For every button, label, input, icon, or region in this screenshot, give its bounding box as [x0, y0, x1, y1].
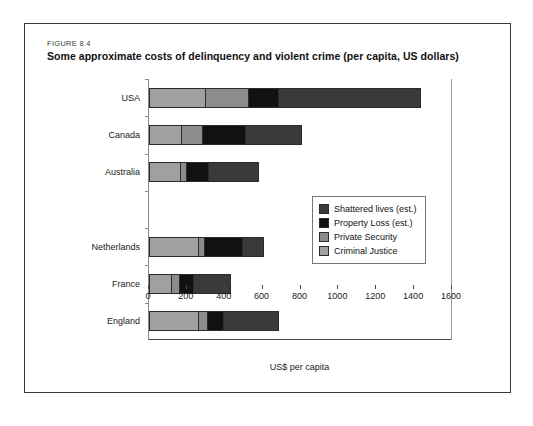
x-axis-tick-label: 1600 — [441, 291, 461, 301]
bar-segment — [205, 89, 248, 107]
y-axis-tick — [145, 191, 149, 192]
x-axis-tick-label: 200 — [178, 291, 193, 301]
chart-legend: Shattered lives (est.)Property Loss (est… — [312, 196, 426, 264]
bar-segment — [181, 126, 202, 144]
chart-plot: USACanadaAustraliaNetherlandsFranceEngla… — [25, 24, 512, 394]
bar-segment — [150, 89, 205, 107]
bar-segment — [150, 163, 180, 181]
bar-segment — [245, 126, 301, 144]
y-axis-label: Netherlands — [91, 242, 140, 252]
legend-item[interactable]: Property Loss (est.) — [319, 216, 417, 230]
x-axis-tick — [262, 285, 263, 289]
chart-category-row: England — [149, 303, 451, 340]
y-axis-tick — [145, 154, 149, 155]
bar-segment — [150, 126, 181, 144]
x-axis-tick-label: 800 — [292, 291, 307, 301]
legend-item[interactable]: Criminal Justice — [319, 244, 417, 258]
y-axis-tick — [145, 116, 149, 117]
x-axis-tick — [451, 285, 452, 289]
bar-segment — [150, 238, 198, 256]
y-axis-label: Canada — [108, 130, 140, 140]
y-axis-tick — [145, 303, 149, 304]
legend-item[interactable]: Shattered lives (est.) — [319, 202, 417, 216]
stacked-bar — [149, 125, 302, 145]
x-axis-tick — [300, 285, 301, 289]
x-axis-tick — [224, 285, 225, 289]
stacked-bar — [149, 237, 264, 257]
x-axis-tick-label: 400 — [216, 291, 231, 301]
bar-segment — [278, 89, 420, 107]
x-axis-title: US$ per capita — [148, 362, 451, 372]
x-axis-tick — [375, 285, 376, 289]
legend-swatch-icon — [319, 204, 329, 214]
bar-segment — [202, 126, 245, 144]
legend-swatch-icon — [319, 246, 329, 256]
bar-segment — [248, 89, 278, 107]
bar-segment — [150, 312, 198, 330]
x-axis-tick — [413, 285, 414, 289]
legend-swatch-icon — [319, 232, 329, 242]
y-axis-label: USA — [121, 93, 140, 103]
bar-segment — [204, 238, 242, 256]
stacked-bar — [149, 162, 259, 182]
legend-label: Shattered lives (est.) — [334, 204, 417, 214]
stacked-bar — [149, 311, 279, 331]
bar-segment — [186, 163, 208, 181]
x-axis-tick-label: 1200 — [365, 291, 385, 301]
x-axis-tick-label: 600 — [254, 291, 269, 301]
legend-label: Criminal Justice — [334, 246, 398, 256]
stacked-bar — [149, 88, 421, 108]
legend-label: Private Security — [334, 232, 397, 242]
bar-segment — [150, 275, 171, 293]
x-axis-tick — [337, 285, 338, 289]
x-axis-tick-label: 1400 — [403, 291, 423, 301]
bar-segment — [208, 163, 258, 181]
bar-segment — [198, 312, 207, 330]
y-axis-tick — [145, 79, 149, 80]
x-axis-tick — [186, 285, 187, 289]
bar-segment — [207, 312, 223, 330]
figure-frame: FIGURE 8.4 Some approximate costs of del… — [24, 23, 511, 393]
chart-category-row: Australia — [149, 154, 451, 191]
y-axis-label: Australia — [105, 167, 140, 177]
x-axis-tick — [148, 285, 149, 289]
y-axis-tick — [145, 265, 149, 266]
legend-item[interactable]: Private Security — [319, 230, 417, 244]
bar-segment — [223, 312, 278, 330]
legend-swatch-icon — [319, 218, 329, 228]
chart-category-row: USA — [149, 79, 451, 116]
bar-segment — [242, 238, 263, 256]
y-axis-label: France — [112, 279, 140, 289]
y-axis-label: England — [107, 316, 140, 326]
legend-label: Property Loss (est.) — [334, 218, 413, 228]
x-axis-tick-label: 1000 — [327, 291, 347, 301]
y-axis-tick — [145, 228, 149, 229]
chart-category-row: Canada — [149, 116, 451, 153]
x-axis-tick-label: 0 — [145, 291, 150, 301]
